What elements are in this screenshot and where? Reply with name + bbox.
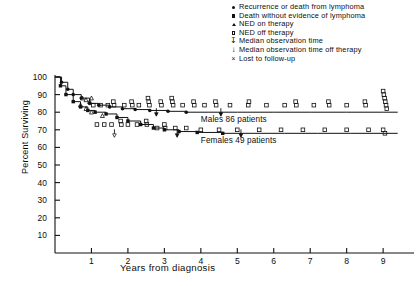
- censored-markers-males: [80, 89, 388, 110]
- series-males: [55, 77, 398, 114]
- series-annotation-females: Females 49 patients: [201, 136, 277, 145]
- y-axis-tick: 100: [25, 72, 47, 82]
- series-annotation-males: Males 86 patients: [201, 115, 267, 124]
- y-axis-tick: 40: [25, 178, 47, 188]
- x-axis-tick: 6: [267, 256, 281, 266]
- y-axis-tick: 80: [25, 107, 47, 117]
- y-axis-tick: 90: [25, 90, 47, 100]
- y-axis-tick: 30: [25, 195, 47, 205]
- x-axis-tick: 8: [340, 256, 354, 266]
- y-axis-tick: 60: [25, 142, 47, 152]
- x-axis-tick: 7: [303, 256, 317, 266]
- y-axis-tick: 20: [25, 213, 47, 223]
- y-axis-tick: 10: [25, 230, 47, 240]
- y-axis-tick: 70: [25, 125, 47, 135]
- x-axis-tick: 4: [194, 256, 208, 266]
- y-axis-tick: 50: [25, 160, 47, 170]
- x-axis-tick: 3: [157, 256, 171, 266]
- x-axis-tick: 5: [230, 256, 244, 266]
- x-axis-tick: 1: [84, 256, 98, 266]
- x-axis-tick: 9: [376, 256, 390, 266]
- x-axis-tick: 2: [121, 256, 135, 266]
